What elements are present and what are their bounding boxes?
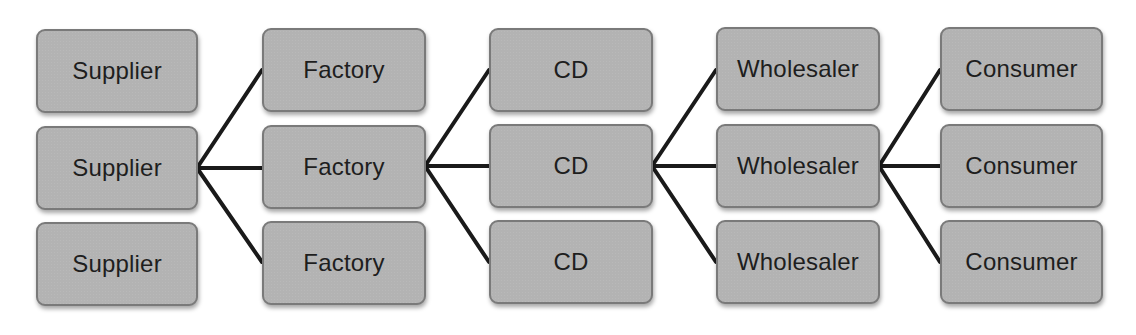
node-cd-middle: CD bbox=[489, 124, 653, 208]
node-label: Consumer bbox=[965, 152, 1077, 180]
node-label: Wholesaler bbox=[737, 248, 859, 276]
edge-cd-wholesaler-bottom bbox=[652, 166, 716, 262]
edge-wholesaler-consumer-top bbox=[879, 70, 940, 166]
node-wholesaler-middle: Wholesaler bbox=[716, 124, 880, 208]
node-consumer-top: Consumer bbox=[940, 27, 1103, 111]
node-label: Consumer bbox=[965, 248, 1077, 276]
edge-supplier-factory-top bbox=[197, 70, 262, 168]
edge-supplier-factory-bottom bbox=[197, 168, 262, 262]
node-label: Wholesaler bbox=[737, 55, 859, 83]
node-factory-middle: Factory bbox=[262, 125, 426, 209]
node-factory-bottom: Factory bbox=[262, 221, 426, 305]
edge-cd-wholesaler-top bbox=[652, 70, 716, 166]
node-label: Factory bbox=[303, 153, 384, 181]
node-label: CD bbox=[553, 56, 588, 84]
node-factory-top: Factory bbox=[262, 28, 426, 112]
edge-factory-cd-bottom bbox=[425, 166, 489, 262]
supply-chain-diagram: Supplier Supplier Supplier Factory Facto… bbox=[0, 0, 1136, 335]
node-consumer-bottom: Consumer bbox=[940, 220, 1103, 304]
edge-factory-cd-top bbox=[425, 70, 489, 166]
edge-wholesaler-consumer-bottom bbox=[879, 166, 940, 262]
node-wholesaler-bottom: Wholesaler bbox=[716, 220, 880, 304]
node-supplier-bottom: Supplier bbox=[36, 222, 198, 306]
node-cd-bottom: CD bbox=[489, 220, 653, 304]
node-label: Supplier bbox=[72, 57, 162, 85]
node-label: Supplier bbox=[72, 154, 162, 182]
node-supplier-middle: Supplier bbox=[36, 126, 198, 210]
node-label: CD bbox=[553, 152, 588, 180]
node-wholesaler-top: Wholesaler bbox=[716, 27, 880, 111]
node-cd-top: CD bbox=[489, 28, 653, 112]
node-label: CD bbox=[553, 248, 588, 276]
node-label: Consumer bbox=[965, 55, 1077, 83]
node-label: Wholesaler bbox=[737, 152, 859, 180]
node-consumer-middle: Consumer bbox=[940, 124, 1103, 208]
node-supplier-top: Supplier bbox=[36, 29, 198, 113]
node-label: Supplier bbox=[72, 250, 162, 278]
node-label: Factory bbox=[303, 249, 384, 277]
node-label: Factory bbox=[303, 56, 384, 84]
